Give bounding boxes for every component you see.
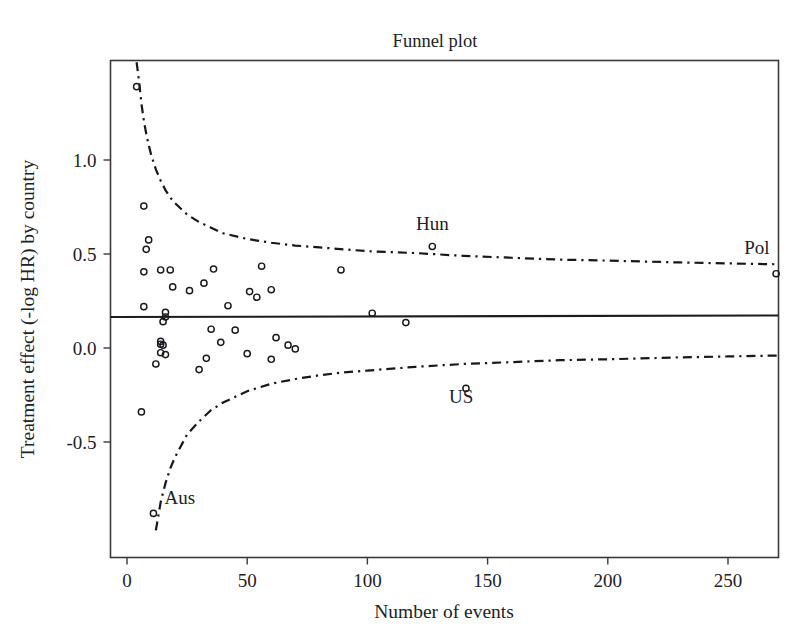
funnel-limit-curves (137, 62, 779, 530)
data-point (218, 339, 224, 345)
annotation-pol: Pol (744, 237, 769, 258)
data-point (259, 263, 265, 269)
data-point (244, 351, 250, 357)
data-point (273, 335, 279, 341)
reference-line (111, 315, 779, 317)
data-point (403, 320, 409, 326)
pooled-effect-line (111, 315, 779, 317)
data-point (158, 267, 164, 273)
funnel-plot-canvas: Funnel plot Treatment effect (-log HR) b… (0, 0, 809, 636)
x-tick-label: 250 (714, 570, 743, 591)
annotation-aus: Aus (165, 487, 196, 508)
data-point (232, 327, 238, 333)
data-point (150, 510, 156, 516)
funnel-plot-figure: Funnel plot Treatment effect (-log HR) b… (0, 0, 809, 636)
x-tick-label: 200 (594, 570, 623, 591)
annotation-hun: Hun (416, 213, 449, 234)
x-tick-label: 150 (473, 570, 502, 591)
chart-title: Funnel plot (393, 31, 479, 51)
data-point (225, 303, 231, 309)
data-point (146, 237, 152, 243)
data-point (196, 367, 202, 373)
plot-frame (111, 61, 779, 558)
x-tick-label: 50 (238, 570, 257, 591)
data-point (186, 288, 192, 294)
data-point (208, 326, 214, 332)
funnel-upper-limit-curve (137, 62, 779, 264)
y-tick-label: -0.5 (66, 432, 96, 453)
y-tick-label: 0.0 (73, 338, 97, 359)
data-point (268, 356, 274, 362)
y-axis-title: Treatment effect (-log HR) by country (17, 160, 39, 459)
x-tick-label: 0 (122, 570, 132, 591)
data-point (141, 203, 147, 209)
x-tick-label: 100 (353, 570, 382, 591)
funnel-lower-limit-curve (156, 356, 779, 531)
data-point (201, 280, 207, 286)
data-points (134, 84, 780, 517)
y-tick-label: 0.5 (73, 244, 97, 265)
data-point (143, 246, 149, 252)
data-point (254, 294, 260, 300)
data-point (210, 266, 216, 272)
data-point (429, 243, 435, 249)
data-point (338, 267, 344, 273)
x-axis-title: Number of events (374, 601, 514, 622)
data-point (167, 267, 173, 273)
data-point (138, 409, 144, 415)
data-point (141, 269, 147, 275)
data-point (170, 284, 176, 290)
x-axis-ticks: 050100150200250 (122, 558, 742, 591)
annotation-us: US (449, 386, 473, 407)
y-tick-label: 1.0 (73, 150, 97, 171)
data-point (292, 346, 298, 352)
data-point (268, 287, 274, 293)
data-point (203, 355, 209, 361)
y-axis-ticks: 1.00.50.0-0.5 (66, 150, 110, 453)
data-point (153, 361, 159, 367)
data-point (285, 342, 291, 348)
data-point (141, 304, 147, 310)
data-point (247, 289, 253, 295)
